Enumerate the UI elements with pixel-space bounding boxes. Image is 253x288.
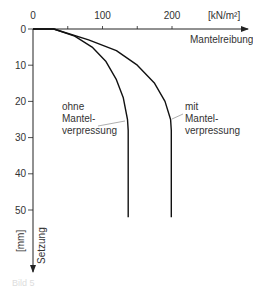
series-label-line: verpressung [62, 125, 117, 136]
figure-caption: Bild 5 [12, 278, 35, 288]
leader-mit [172, 114, 183, 119]
y-tick-label: 20 [15, 96, 27, 107]
y-tick-label: 50 [15, 205, 27, 216]
x-axis-title: Mantelreibung [190, 34, 253, 45]
x-tick-label: 200 [164, 10, 181, 21]
y-tick-label: 10 [15, 60, 27, 71]
curves [33, 29, 171, 217]
series-label-line: Mantel- [185, 113, 218, 124]
settlement-chart: 0100200 01020304050 ohneMantel-verpressu… [0, 0, 253, 288]
x-ticks: 0100200 [30, 10, 181, 29]
y-tick-label: 40 [15, 168, 27, 179]
x-tick-label: 0 [30, 10, 36, 21]
y-tick-label: 30 [15, 132, 27, 143]
series-label-line: verpressung [185, 125, 240, 136]
y-ticks: 01020304050 [15, 24, 33, 216]
series-labels: ohneMantel-verpressungmitMantel-verpress… [62, 101, 240, 136]
series-label-line: Mantel- [62, 113, 95, 124]
series-label-line: mit [185, 101, 199, 112]
y-axis-title: Setzung [36, 227, 47, 264]
x-tick-label: 100 [94, 10, 111, 21]
y-tick-label: 0 [20, 24, 26, 35]
y-unit-label: [mm] [15, 230, 26, 252]
x-unit-label: [kN/m²] [208, 10, 240, 21]
series-label-line: ohne [62, 101, 85, 112]
